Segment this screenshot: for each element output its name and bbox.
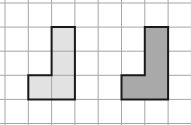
shape-cell [28,75,51,99]
shape-cell [52,51,75,75]
shape-cell [52,75,75,99]
shape-cell [52,27,75,51]
shape-cell [122,75,145,99]
shape-cell [145,75,168,99]
grid-diagram [0,0,191,125]
shape-cell [145,27,168,51]
shape-cell [145,51,168,75]
